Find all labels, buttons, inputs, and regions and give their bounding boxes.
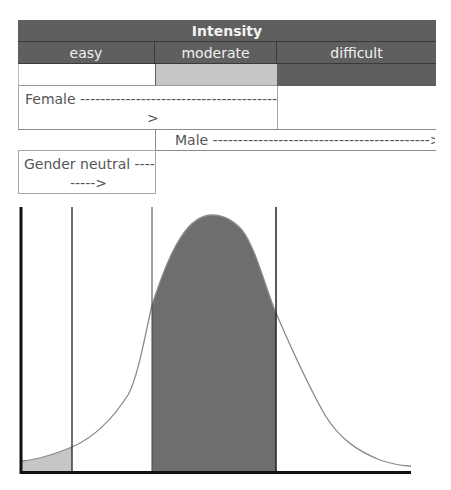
shaded-region-dark (152, 215, 276, 472)
bell-curve-chart (0, 0, 451, 490)
